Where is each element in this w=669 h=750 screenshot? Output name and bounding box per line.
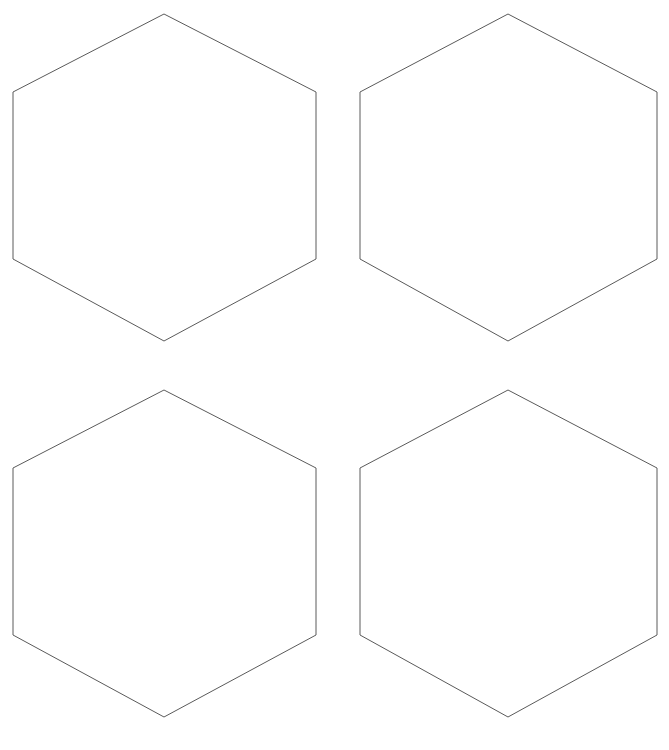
hexagon-bottom-right[interactable]: [360, 390, 657, 717]
hexagon-canvas: [0, 0, 669, 750]
hexagon-top-right[interactable]: [360, 14, 657, 341]
hexagon-bottom-left[interactable]: [13, 390, 316, 717]
hexagon-grid-svg: [0, 0, 669, 750]
hexagon-top-left[interactable]: [13, 14, 316, 341]
